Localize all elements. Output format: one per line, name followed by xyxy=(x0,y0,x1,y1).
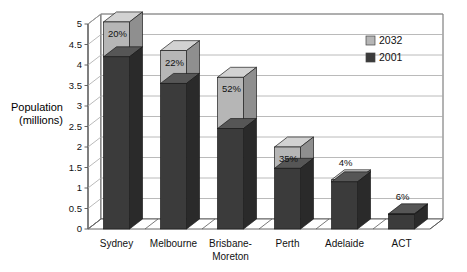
bar-growth-label: 52% xyxy=(222,83,242,94)
y-tick-label: 2.5 xyxy=(69,121,82,132)
segment-2001-front-face xyxy=(332,182,358,229)
segment-2001-side-face xyxy=(187,73,200,229)
y-axis-title-line: Population xyxy=(11,101,63,113)
bar-growth-label: 4% xyxy=(339,157,353,168)
segment-2001-side-face xyxy=(244,119,257,229)
y-tick-label: 1.5 xyxy=(69,162,82,173)
bar-sydney[interactable]: 20% xyxy=(104,12,143,229)
bar-growth-label: 6% xyxy=(396,191,410,202)
legend-swatch xyxy=(366,53,375,62)
bar-melbourne[interactable]: 22% xyxy=(161,41,200,229)
y-tick-label: 4 xyxy=(77,59,82,70)
bar-growth-label: 22% xyxy=(165,57,185,68)
x-category-label: Melbourne xyxy=(150,238,198,249)
x-category-label: Moreton xyxy=(212,251,249,262)
chart-canvas: 00.511.522.533.544.55Population(millions… xyxy=(0,0,467,272)
y-tick-label: 3 xyxy=(77,100,82,111)
y-tick-label: 0 xyxy=(77,223,82,234)
population-chart: 00.511.522.533.544.55Population(millions… xyxy=(0,0,467,272)
segment-2001-side-face xyxy=(358,172,371,229)
segment-2001 xyxy=(161,73,200,229)
segment-2001-front-face xyxy=(275,168,301,229)
segment-2001 xyxy=(104,47,143,229)
y-tick-label: 5 xyxy=(77,18,82,29)
legend-item[interactable]: 2001 xyxy=(366,51,403,63)
y-tick-label: 1 xyxy=(77,182,82,193)
segment-2001-front-face xyxy=(389,215,415,229)
x-category-label: Adelaide xyxy=(325,238,364,249)
x-category-label: ACT xyxy=(392,238,412,249)
segment-2001 xyxy=(218,119,257,229)
bar-growth-label: 35% xyxy=(279,153,299,164)
bar-growth-label: 20% xyxy=(108,28,128,39)
bar-brisbane-moreton[interactable]: 52% xyxy=(218,67,257,229)
y-tick-label: 0.5 xyxy=(69,203,82,214)
y-axis-ticks: 00.511.522.533.544.55 xyxy=(69,18,88,234)
segment-2001-side-face xyxy=(301,158,314,229)
segment-2001-front-face xyxy=(104,57,130,229)
bar-perth[interactable]: 35% xyxy=(275,137,314,229)
segment-2001-side-face xyxy=(130,47,143,229)
segment-2001-front-face xyxy=(218,129,244,229)
y-tick-label: 3.5 xyxy=(69,80,82,91)
legend-label: 2001 xyxy=(379,51,403,63)
y-axis-title-line: (millions) xyxy=(19,114,63,126)
legend-item[interactable]: 2032 xyxy=(366,34,403,46)
segment-2001-front-face xyxy=(161,83,187,229)
y-axis-title: Population(millions) xyxy=(11,101,63,126)
segment-2001 xyxy=(275,158,314,229)
y-tick-label: 2 xyxy=(77,141,82,152)
x-category-label: Sydney xyxy=(100,238,133,249)
x-category-label: Perth xyxy=(276,238,300,249)
segment-2001 xyxy=(332,172,371,229)
segment-2032-front-face xyxy=(389,214,415,215)
x-category-label: Brisbane- xyxy=(209,238,252,249)
legend-label: 2032 xyxy=(379,34,403,46)
legend-swatch xyxy=(366,36,375,45)
y-tick-label: 4.5 xyxy=(69,39,82,50)
